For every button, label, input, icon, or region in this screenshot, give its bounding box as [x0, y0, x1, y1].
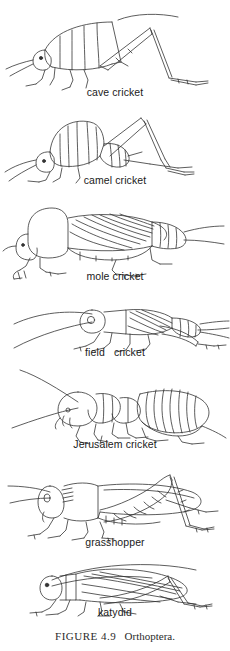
mole-cricket-drawing [0, 200, 230, 280]
cave-cricket-drawing [0, 0, 230, 90]
caption-gap [116, 630, 124, 642]
specimen-label-camel-cricket: camel cricket [0, 174, 230, 186]
specimen-label-jerusalem-cricket: Jerusalem cricket [0, 438, 230, 450]
specimen-label-field-cricket: field cricket [0, 346, 230, 358]
figure-number: FIGURE 4.9 [55, 630, 116, 642]
figure-subject: Orthoptera. [125, 630, 175, 642]
specimen-field-cricket: field cricket [0, 296, 230, 366]
specimen-label-grasshopper: grasshopper [0, 536, 230, 548]
specimen-mole-cricket: mole cricket [0, 200, 230, 294]
specimen-grasshopper: grasshopper [0, 466, 230, 556]
figure-caption: FIGURE 4.9 Orthoptera. [0, 630, 230, 643]
specimen-label-mole-cricket: mole cricket [0, 270, 230, 282]
specimen-cave-cricket: cave cricket [0, 0, 230, 110]
specimen-jerusalem-cricket: Jerusalem cricket [0, 368, 230, 464]
specimen-label-katydid: katydid [0, 606, 230, 618]
figure-plate: cave cricket [0, 0, 230, 651]
specimen-label-cave-cricket: cave cricket [0, 86, 230, 98]
specimen-katydid: katydid [0, 560, 230, 626]
specimen-camel-cricket: camel cricket [0, 112, 230, 196]
grasshopper-drawing [0, 466, 230, 544]
